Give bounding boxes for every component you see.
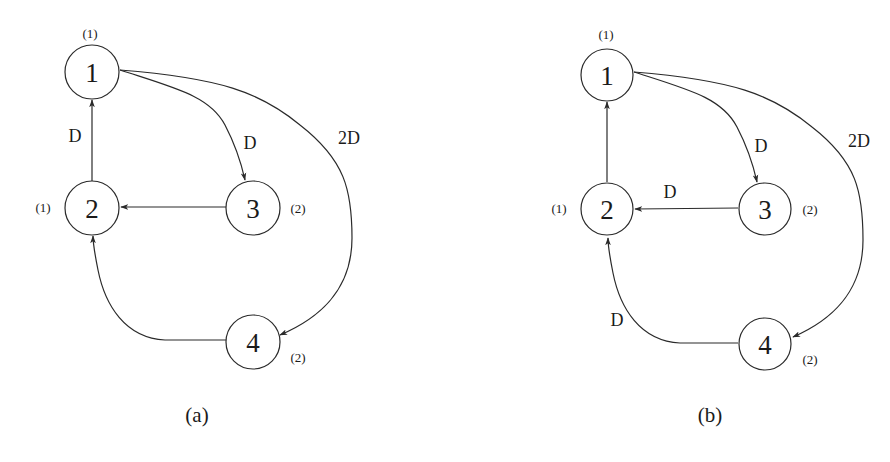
node-label: 1	[600, 61, 614, 91]
node-weight: (1)	[35, 200, 50, 215]
node-b-4: 4 (2)	[739, 318, 818, 370]
panel-a: D D 2D 1 (1) 2 (1) 3 (2) 4 (2) (a)	[35, 26, 360, 428]
node-label: 2	[85, 194, 99, 224]
node-weight: (1)	[598, 27, 613, 42]
caption-a: (a)	[185, 403, 208, 427]
node-a-3: 3 (2)	[226, 181, 306, 235]
node-weight: (2)	[802, 352, 817, 367]
edge-label-b-4-to-2: D	[611, 310, 624, 330]
node-label: 4	[758, 330, 772, 360]
node-a-1: 1 (1)	[65, 26, 119, 100]
node-a-2: 2 (1)	[35, 181, 119, 235]
node-weight: (2)	[290, 201, 305, 216]
edge-b-4-to-2	[608, 238, 738, 343]
node-label: 2	[600, 195, 614, 225]
node-a-4: 4 (2)	[226, 315, 306, 369]
edge-label-b-3-to-2: D	[664, 182, 677, 202]
node-weight: (1)	[551, 201, 566, 216]
node-label: 3	[758, 195, 772, 225]
edge-a-4-to-2	[93, 236, 226, 340]
panel-b: D D 2D D 1 (1) 2 (1) 3 (2) 4 (2) (b)	[551, 27, 870, 428]
edge-label-a-1-to-3: D	[244, 133, 257, 153]
node-label: 1	[85, 58, 99, 88]
node-weight: (1)	[82, 26, 97, 41]
node-b-2: 2 (1)	[551, 183, 633, 235]
node-b-3: 3 (2)	[739, 183, 818, 235]
edge-label-b-1-to-4: 2D	[848, 131, 870, 151]
caption-b: (b)	[698, 403, 723, 427]
edge-label-a-1-to-4: 2D	[338, 128, 360, 148]
node-weight: (2)	[290, 350, 305, 365]
edge-b-3-to-2	[635, 208, 738, 209]
diagram-canvas: D D 2D 1 (1) 2 (1) 3 (2) 4 (2) (a)	[0, 0, 890, 462]
node-label: 4	[246, 328, 260, 358]
edge-label-a-2-to-1: D	[69, 126, 82, 146]
node-weight: (2)	[802, 202, 817, 217]
node-label: 3	[246, 194, 260, 224]
node-b-1: 1 (1)	[581, 27, 633, 102]
edge-label-b-1-to-3: D	[755, 136, 768, 156]
